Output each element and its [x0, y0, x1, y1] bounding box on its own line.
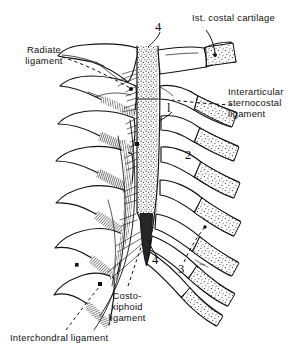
- label-interarticular-sternocostal-ligament: Interarticular sternocostal ligament: [228, 86, 284, 119]
- label-interchondral-ligament: Interchondral ligament: [10, 332, 108, 343]
- label-costoxiphoid-ligament: Costo- xiphoid ligament: [90, 290, 164, 323]
- label-first-costal-cartilage: Ist. costal cartilage: [192, 12, 275, 23]
- marker-sternum-mid: [135, 142, 139, 146]
- leader-dot-first-costal: [213, 53, 217, 57]
- callout-number-bottom-four: 4: [152, 253, 158, 268]
- leader-dot-three: [203, 225, 206, 228]
- label-radiate-ligament: Radiate ligament: [8, 44, 80, 66]
- callout-number-top-four: 4: [155, 20, 161, 35]
- callout-number-bottom-three: 3: [178, 262, 184, 277]
- callout-number-rib-one: l: [167, 101, 170, 116]
- leader-dot-radiate: [129, 87, 133, 91]
- callout-number-rib-two: 2: [185, 148, 191, 163]
- leader-dot-interchondral: [98, 282, 102, 286]
- marker-left-margin: [75, 263, 79, 267]
